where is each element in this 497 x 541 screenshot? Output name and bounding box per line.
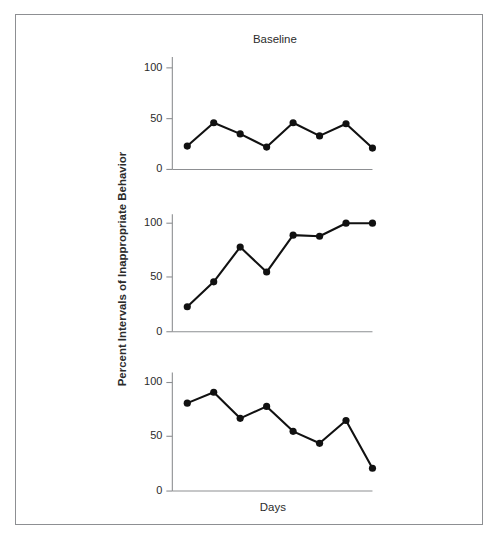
data-point [237, 130, 244, 137]
panel-middle-series-line [187, 223, 372, 307]
data-point [184, 400, 191, 407]
data-point [210, 389, 217, 396]
panel-title: Baseline [253, 33, 297, 45]
data-point [369, 220, 376, 227]
data-point [369, 145, 376, 152]
data-point [263, 144, 270, 151]
panel-middle-series-markers [184, 220, 376, 311]
panel-top: Baseline 100 50 0 [144, 33, 376, 174]
data-point [316, 440, 323, 447]
data-point [342, 220, 349, 227]
panel-bottom-ticklabel-50: 50 [150, 429, 162, 441]
data-point [184, 142, 191, 149]
panel-bottom-ticklabel-0: 0 [156, 484, 162, 496]
data-point [210, 278, 217, 285]
panel-top-ticklabel-50: 50 [150, 112, 162, 124]
panel-middle-ticklabel-50: 50 [150, 270, 162, 282]
panel-bottom-ticklabel-100: 100 [144, 375, 162, 387]
panel-top-ticklabel-0: 0 [156, 162, 162, 174]
data-point [290, 119, 297, 126]
panel-bottom-series-line [187, 392, 372, 468]
data-point [316, 132, 323, 139]
data-point [342, 120, 349, 127]
data-point [263, 268, 270, 275]
data-point [290, 428, 297, 435]
data-point [369, 465, 376, 472]
multiple-baseline-chart: Percent Intervals of Inappropriate Behav… [16, 15, 482, 524]
y-axis-label: Percent Intervals of Inappropriate Behav… [116, 151, 128, 386]
panel-middle-ticklabel-100: 100 [144, 216, 162, 228]
panel-middle-ticklabel-0: 0 [156, 325, 162, 337]
panel-bottom-series-markers [184, 389, 376, 472]
data-point [290, 232, 297, 239]
panel-bottom: 100 50 0 Days [144, 373, 376, 513]
data-point [237, 243, 244, 250]
data-point [316, 233, 323, 240]
panel-middle: 100 50 0 [144, 214, 376, 336]
x-axis-label: Days [260, 501, 286, 513]
data-point [237, 415, 244, 422]
data-point [210, 119, 217, 126]
panel-top-ticklabel-100: 100 [144, 61, 162, 73]
data-point [342, 417, 349, 424]
data-point [263, 403, 270, 410]
figure-frame: Percent Intervals of Inappropriate Behav… [15, 14, 483, 525]
data-point [184, 303, 191, 310]
